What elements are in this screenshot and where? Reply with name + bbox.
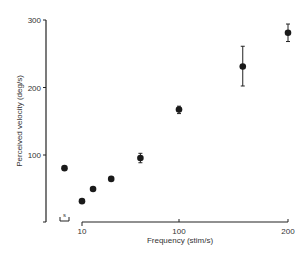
x-tick-10: 10 [78,227,87,236]
data-point [90,186,97,193]
y-axis-title: Perceived velocity (deg/s) [15,75,24,167]
x-tick-200: 200 [281,227,295,236]
y-tick-200: 200 [28,84,42,93]
data-point [285,29,292,36]
stationary-label: s [63,212,66,218]
data-point [61,165,68,172]
y-tick-300: 300 [28,16,42,25]
x-tick-100: 100 [172,227,186,236]
y-tick-100: 100 [28,151,42,160]
y-ticks: 300 200 100 [28,16,46,222]
data-point [108,176,115,183]
data-point [176,106,183,113]
data-point [79,198,86,205]
data-points [61,24,291,204]
chart: 300 200 100 Perceived velocity (deg/s) 1… [0,0,306,255]
x-axis-title: Frequency (stim/s) [147,236,214,245]
stationary-bracket: s [60,212,69,221]
data-point [137,155,144,162]
data-point [239,63,246,70]
